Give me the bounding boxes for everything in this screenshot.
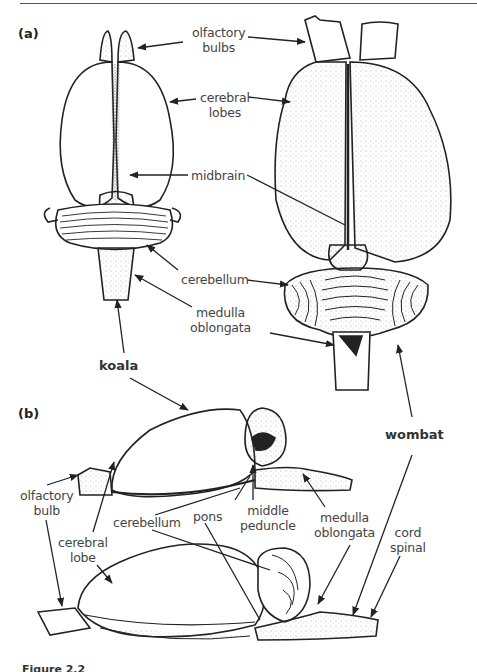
species-label-wombat: wombat (385, 427, 444, 442)
label-olfactory-bulb: olfactory bulb (20, 488, 73, 518)
label-medulla-oblongata-a: medulla oblongata (190, 305, 251, 335)
label-cerebellum-a: cerebellum (181, 272, 249, 287)
label-spinal-cord: cord spinal (390, 525, 426, 555)
koala-dorsal-brain (44, 31, 180, 300)
label-pons: pons (193, 509, 222, 524)
panel-b-tag: (b) (18, 406, 39, 421)
label-cerebellum-b: cerebellum (113, 515, 181, 530)
label-middle-peduncle: middle peduncle (240, 503, 296, 533)
koala-lateral-brain (78, 408, 352, 497)
label-olfactory-bulbs: olfactory bulbs (192, 25, 245, 55)
label-cerebral-lobe: cerebral lobe (58, 535, 108, 565)
figure-caption: Figure 2.2 (22, 662, 85, 672)
species-label-koala: koala (99, 358, 138, 373)
label-midbrain: midbrain (191, 168, 245, 183)
label-cerebral-lobes: cerebral lobes (200, 90, 250, 120)
label-medulla-oblongata-b: medulla oblongata (314, 510, 375, 540)
panel-a-tag: (a) (18, 26, 39, 41)
